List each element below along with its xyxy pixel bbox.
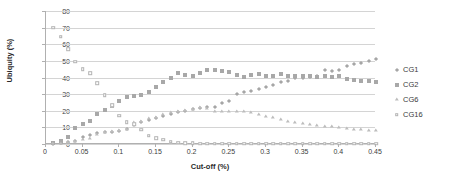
series-cg16 — [46, 11, 375, 143]
data-point — [162, 138, 166, 142]
legend-marker-square-open-icon — [392, 110, 401, 119]
chart-figure: Ubiquity (%) 01020304050607080 00.050.10… — [0, 0, 449, 194]
x-axis-title: Cut-off (%) — [45, 162, 375, 171]
x-tick-label: 0.25 — [208, 148, 248, 156]
x-tick-mark — [118, 144, 119, 147]
x-tick-mark — [155, 144, 156, 147]
y-axis-title: Ubiquity (%) — [5, 16, 14, 106]
data-point — [169, 140, 173, 144]
data-point — [88, 72, 92, 76]
data-point — [125, 121, 129, 125]
data-point — [154, 136, 158, 140]
legend-label: CG6 — [403, 95, 418, 104]
data-point — [81, 67, 85, 71]
data-point — [140, 128, 144, 132]
x-tick-mark — [228, 144, 229, 147]
data-point — [103, 93, 107, 97]
data-point — [59, 35, 63, 39]
data-point — [147, 134, 151, 138]
data-point — [74, 60, 78, 64]
legend-label: CG1 — [403, 65, 418, 74]
x-tick-label: 0.2 — [172, 148, 212, 156]
plot-area — [45, 11, 375, 144]
x-tick-mark — [82, 144, 83, 147]
legend-label: CG2 — [403, 80, 418, 89]
x-tick-label: 0.15 — [135, 148, 175, 156]
x-tick-mark — [265, 144, 266, 147]
legend-marker-diamond-icon — [392, 65, 401, 74]
data-point — [118, 114, 122, 118]
legend-label: CG16 — [403, 110, 423, 119]
data-point — [96, 82, 100, 86]
data-point — [66, 47, 70, 51]
x-tick-mark — [375, 144, 376, 147]
x-tick-label: 0 — [25, 148, 65, 156]
x-tick-mark — [192, 144, 193, 147]
x-tick-mark — [45, 144, 46, 147]
x-tick-label: 0.3 — [245, 148, 285, 156]
legend-item-cg16[interactable]: CG16 — [392, 107, 449, 122]
x-tick-label: 0.05 — [62, 148, 102, 156]
x-tick-label: 0.1 — [98, 148, 138, 156]
data-point — [52, 26, 56, 30]
x-tick-mark — [338, 144, 339, 147]
data-point — [132, 122, 136, 126]
x-tick-label: 0.35 — [282, 148, 322, 156]
data-point — [110, 103, 114, 107]
gridline — [46, 144, 375, 145]
legend-marker-triangle-icon — [392, 95, 401, 104]
legend-item-cg1[interactable]: CG1 — [392, 62, 449, 77]
legend-marker-square-icon — [392, 80, 401, 89]
legend-item-cg2[interactable]: CG2 — [392, 77, 449, 92]
x-tick-label: 0.45 — [355, 148, 395, 156]
x-tick-label: 0.4 — [318, 148, 358, 156]
chart-legend: CG1CG2CG6CG16 — [392, 62, 449, 122]
legend-item-cg6[interactable]: CG6 — [392, 92, 449, 107]
x-tick-mark — [302, 144, 303, 147]
